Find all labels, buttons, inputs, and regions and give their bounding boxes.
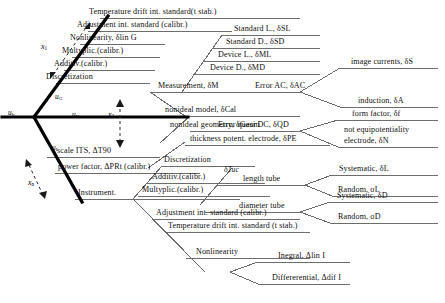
label-not-equipotentiality: not equipotentiality	[344, 126, 409, 134]
label-error-quasi-dc: Error quasi DC, δQD	[218, 121, 289, 129]
label-instrument: Instrument.	[78, 189, 116, 197]
label-error-ac: Error AC, δAC	[255, 82, 305, 90]
label-nonideal-model: nonideal model, δCal	[165, 106, 236, 114]
label-multyplic-calibr-2: Multyplic.(calibr.)	[142, 186, 203, 194]
label-scale-its: scale ITS, ΔT90	[57, 147, 111, 155]
label-induction: induction, δA	[358, 97, 404, 105]
label-random-d: Random, σD	[338, 213, 381, 221]
label-temperature-drift-standard-2: Temperature drift int. standard (t stab.…	[168, 222, 298, 230]
label-length-tube: length tube	[243, 175, 280, 183]
len-fork-down	[305, 185, 332, 196]
len-fork-up	[305, 175, 332, 185]
label-multyplic-calibr: Multyplic.(calibr.)	[62, 47, 123, 55]
label-differerential: Differerential, Δdif I	[272, 274, 341, 282]
label-adjustment-int-standard: Adjustment int. standard (calibr.)	[77, 21, 188, 29]
label-temperature-drift-standard: Temperature drift int. standard(t stab.)	[89, 8, 217, 16]
fishbone-diagram: ub uG uK uI x1 x2 xn Temperature drift i…	[0, 0, 445, 303]
label-delta-tuc: δTuc	[224, 166, 239, 174]
qdc-fork-up	[300, 120, 338, 131]
ac-fork-down	[300, 92, 340, 107]
arrowhead-x2-down	[116, 140, 124, 148]
arrowhead-xn-down	[39, 191, 47, 199]
label-inegral: Inegral, Δlin I	[278, 252, 325, 260]
variable-label-x1: x1	[41, 42, 47, 51]
variable-label-x2: x2	[108, 110, 114, 119]
label-image-currents: image currents, δS	[351, 58, 413, 66]
variable-label-xn: xn	[28, 178, 34, 187]
label-standard-l: Standard L., δSL	[234, 25, 291, 33]
label-additiv-calibr: Additiv.(calibr.)	[54, 60, 107, 68]
label-additiv-calibr-2: Additiv.(calibr.)	[152, 173, 205, 181]
label-discretization-2: Discretization	[164, 156, 211, 164]
spine-label-u-G: uG	[55, 92, 62, 101]
label-adjustment-int-standard-2: Adjustment int. standard (calibr.)	[156, 209, 267, 217]
label-systematic-l: Systematic, δL	[339, 165, 389, 173]
label-standard-d: Standard D., δSD	[226, 38, 284, 46]
label-electrode-n: electrode, δN	[344, 137, 389, 145]
dia-fork-down	[300, 212, 330, 223]
label-device-l: Device L., δML	[218, 51, 271, 59]
spine-label-u-b: ub	[8, 108, 14, 117]
label-nonlinearity-g: Nonlinearity, δlin G	[70, 34, 137, 42]
arrowhead-x2-up	[116, 99, 124, 107]
arrowhead-xn-up	[25, 159, 32, 167]
nl-fork-down	[230, 272, 258, 284]
label-nonlinearity-2: Nonlinearity	[196, 248, 238, 256]
spine-branch-uI	[34, 117, 82, 202]
label-thickness-potent-electrode: thickness potent. electrode, δPE	[190, 135, 297, 143]
label-systematic-d: Systematic, δD	[337, 192, 388, 200]
ac-fork-up	[300, 68, 340, 92]
label-measurement: Measurement, δM	[158, 82, 219, 90]
label-device-d: Device D., δMD	[210, 64, 265, 72]
nl-fork-up	[230, 262, 258, 272]
label-discretization: Discretization	[46, 73, 93, 81]
label-form-factor: form factor, δf	[352, 110, 400, 118]
spine-label-u-K: uK	[72, 110, 79, 119]
dia-fork-up	[300, 202, 330, 212]
label-power-factor: power factor, ΔPRt (calibr.)	[58, 163, 150, 171]
